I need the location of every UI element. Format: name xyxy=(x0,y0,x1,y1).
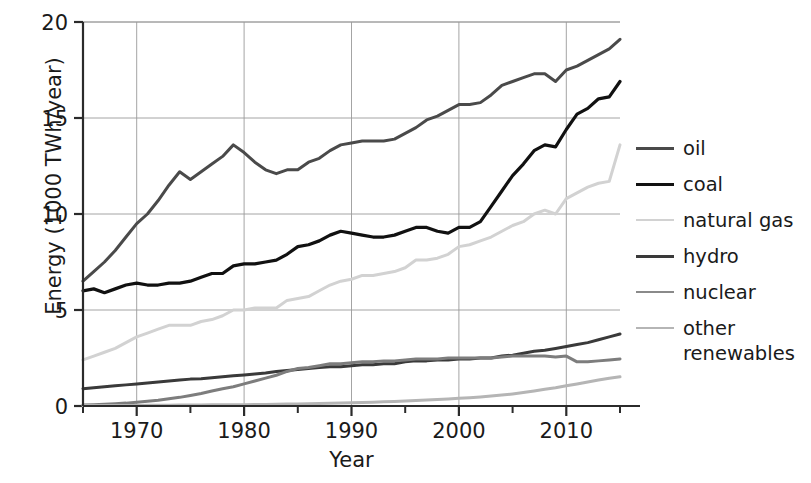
chart-figure: 0510152019701980199020002010 Energy (100… xyxy=(0,0,811,483)
x-tick-label: 1970 xyxy=(110,419,163,443)
legend-item-label: natural gas xyxy=(683,208,793,233)
gridlines xyxy=(83,22,620,406)
legend-swatch-line-icon xyxy=(636,183,674,186)
legend-item-hydro[interactable]: hydro xyxy=(636,244,811,272)
legend-swatch-line-icon xyxy=(636,291,674,293)
y-tick-label: 0 xyxy=(55,395,68,419)
legend-swatch-line-icon xyxy=(636,255,674,258)
legend-item-natural-gas[interactable]: natural gas xyxy=(636,208,811,236)
legend-item-coal[interactable]: coal xyxy=(636,172,811,200)
legend-swatch-line-icon xyxy=(636,327,674,329)
x-tick-label: 1990 xyxy=(325,419,378,443)
y-axis-label: Energy (1000 TWh/year) xyxy=(42,36,66,336)
x-tick-label: 2000 xyxy=(432,419,485,443)
legend-item-label: coal xyxy=(683,172,723,197)
legend-item-label: hydro xyxy=(683,244,739,269)
legend-swatch-line-icon xyxy=(636,147,674,150)
legend-item-oil[interactable]: oil xyxy=(636,136,811,164)
y-tick-label: 20 xyxy=(41,11,68,35)
x-tick-label: 1980 xyxy=(217,419,270,443)
x-tick-label: 2010 xyxy=(540,419,593,443)
legend-swatch-line-icon xyxy=(636,219,674,221)
x-axis-label: Year xyxy=(83,448,620,472)
legend-item-label: other renewables xyxy=(683,316,795,366)
chart-legend: oilcoalnatural gashydronuclearother rene… xyxy=(636,136,811,376)
legend-item-label: nuclear xyxy=(683,280,756,305)
legend-item-label: oil xyxy=(683,136,706,161)
legend-item-other-renewables[interactable]: other renewables xyxy=(636,316,811,368)
legend-item-nuclear[interactable]: nuclear xyxy=(636,280,811,308)
